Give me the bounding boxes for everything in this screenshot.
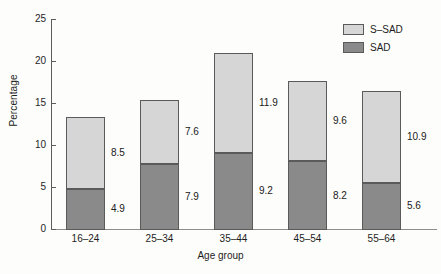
bar-value-label-ssad: 7.6 <box>185 127 199 137</box>
y-tick-label-text: 25 <box>20 14 46 24</box>
x-axis-title: Age group <box>0 250 441 261</box>
bar-group[interactable]: 9.211.9 <box>214 15 253 230</box>
bar-segment-ssad[interactable] <box>214 53 253 153</box>
y-tick-label-text: 0 <box>20 224 46 234</box>
legend-item-sad: SAD <box>343 40 403 55</box>
y-tick-label: 0 <box>16 224 46 234</box>
y-tick-label: 15 <box>16 98 46 108</box>
chart-legend: S–SAD SAD <box>343 22 403 58</box>
y-tick-label-text: 20 <box>20 56 46 66</box>
y-tick-label-text: 5 <box>20 182 46 192</box>
bar-value-label-sad: 9.2 <box>259 186 273 196</box>
y-tick-label: 5 <box>16 182 46 192</box>
bar-segment-ssad[interactable] <box>288 81 327 162</box>
bar-value-label-ssad: 11.9 <box>259 98 278 108</box>
y-tick-label: 20 <box>16 56 46 66</box>
bar-value-label-sad: 7.9 <box>185 192 199 202</box>
bar-segment-sad[interactable] <box>288 161 327 230</box>
bar-value-label-sad: 5.6 <box>407 201 421 211</box>
x-tick-label: 25–34 <box>125 234 195 244</box>
legend-label-ssad: S–SAD <box>370 25 403 35</box>
stacked-bar-chart: Percentage 0510152025 4.98.57.97.69.211.… <box>0 0 441 274</box>
legend-item-ssad: S–SAD <box>343 22 403 37</box>
legend-label-sad: SAD <box>370 43 391 53</box>
bar-value-label-sad: 8.2 <box>333 191 347 201</box>
y-tick-label: 10 <box>16 140 46 150</box>
legend-swatch-ssad-icon <box>343 24 364 35</box>
bar-segment-sad[interactable] <box>140 164 179 230</box>
legend-swatch-sad-icon <box>343 42 364 53</box>
x-tick-label: 16–24 <box>51 234 121 244</box>
x-tick-label: 45–54 <box>273 234 343 244</box>
bar-group[interactable]: 8.29.6 <box>288 15 327 230</box>
bar-value-label-ssad: 9.6 <box>333 116 347 126</box>
bar-segment-ssad[interactable] <box>66 117 105 188</box>
bar-segment-sad[interactable] <box>214 153 253 230</box>
bar-group[interactable]: 4.98.5 <box>66 15 105 230</box>
x-tick-label: 55–64 <box>347 234 417 244</box>
bar-segment-sad[interactable] <box>362 183 401 230</box>
bar-segment-ssad[interactable] <box>140 100 179 164</box>
bar-value-label-ssad: 8.5 <box>111 148 125 158</box>
bar-segment-sad[interactable] <box>66 189 105 230</box>
bar-value-label-ssad: 10.9 <box>407 132 426 142</box>
y-tick-label-text: 10 <box>20 140 46 150</box>
bar-segment-ssad[interactable] <box>362 91 401 183</box>
bar-group[interactable]: 7.97.6 <box>140 15 179 230</box>
y-tick-label: 25 <box>16 14 46 24</box>
y-tick-label-text: 15 <box>20 98 46 108</box>
x-tick-label: 35–44 <box>199 234 269 244</box>
bar-value-label-sad: 4.9 <box>111 204 125 214</box>
